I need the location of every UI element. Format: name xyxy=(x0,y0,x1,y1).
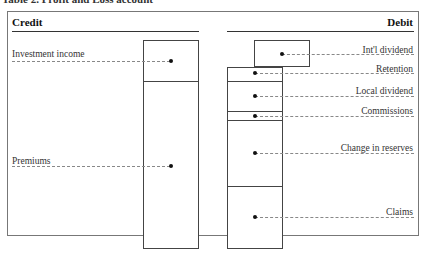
leader-claims xyxy=(255,217,414,218)
marker-change-in-reserves xyxy=(253,151,257,155)
leader-premiums xyxy=(12,166,170,167)
leader-change-in-reserves xyxy=(255,153,414,154)
credit-divider xyxy=(143,81,199,82)
debit-divider-3 xyxy=(227,120,283,121)
leader-retention xyxy=(255,73,414,74)
debit-divider-1 xyxy=(227,81,283,82)
credit-header: Credit xyxy=(12,16,42,28)
leader-investment-income xyxy=(12,61,170,62)
marker-investment-income xyxy=(169,59,173,63)
label-commissions: Commissions xyxy=(361,106,413,116)
marker-retention xyxy=(253,71,257,75)
credit-header-rule xyxy=(12,31,199,32)
debit-divider-4 xyxy=(227,186,283,187)
label-local-dividend: Local dividend xyxy=(356,86,413,96)
leader-local-dividend xyxy=(255,96,414,97)
leader-intl-dividend xyxy=(282,54,414,55)
label-premiums: Premiums xyxy=(12,156,51,166)
marker-local-dividend xyxy=(253,94,257,98)
debit-header: Debit xyxy=(387,16,413,28)
credit-bar xyxy=(143,40,199,249)
marker-intl-dividend xyxy=(280,52,284,56)
marker-premiums xyxy=(169,164,173,168)
debit-divider-2 xyxy=(227,111,283,112)
marker-claims xyxy=(253,215,257,219)
diagram-frame xyxy=(7,11,419,236)
leader-commissions xyxy=(255,116,414,117)
label-claims: Claims xyxy=(386,207,413,217)
label-change-in-reserves: Change in reserves xyxy=(341,143,413,153)
figure-title: Table 2. Profit and Loss account xyxy=(2,0,153,5)
label-investment-income: Investment income xyxy=(12,49,85,59)
marker-commissions xyxy=(253,114,257,118)
debit-header-rule xyxy=(227,31,414,32)
